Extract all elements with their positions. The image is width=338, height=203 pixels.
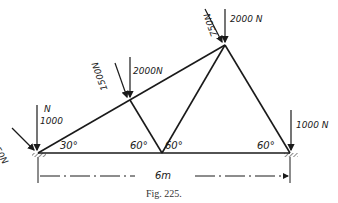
top-vertical-load: 2000 N [230, 14, 263, 24]
upper-left-vertical-load: 2000N [133, 66, 163, 76]
right-support [284, 153, 298, 157]
right-member [225, 45, 290, 153]
span-label: 6m [155, 170, 171, 181]
right-vertical-load: 1000 N [296, 120, 329, 130]
top-chord [38, 45, 225, 153]
left-load-unit: N [44, 104, 51, 114]
left-support [32, 153, 46, 157]
truss-members [38, 45, 290, 153]
angle-right: 60° [257, 140, 275, 151]
middle-diagonal [162, 45, 225, 153]
left-load-value: 1000 [40, 116, 63, 126]
load-arrows [12, 9, 291, 150]
angle-middle-left: 60° [130, 140, 148, 151]
angle-middle-right: 60° [165, 140, 183, 151]
figure-caption: Fig. 225. [146, 188, 182, 199]
angle-left: 30° [60, 140, 78, 151]
